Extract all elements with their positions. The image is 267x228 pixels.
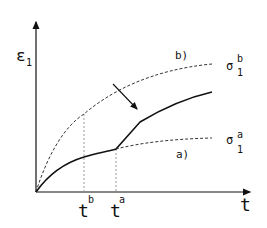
x-axis-label: t: [240, 194, 251, 215]
y-axis-label: ε: [16, 46, 26, 65]
curve-main: [36, 92, 212, 192]
tick-ta-sup: a: [119, 194, 125, 205]
sigma-b-sup: b: [237, 53, 243, 64]
y-axis-label-sub: 1: [26, 57, 32, 68]
sigma-b-sub: 1: [237, 67, 243, 78]
curve-b-label: b): [175, 49, 188, 62]
curve-a-label: a): [176, 148, 189, 161]
tick-tb-sup: b: [88, 194, 94, 205]
sigma-b-label: σ: [226, 59, 233, 73]
sigma-a-label: σ: [226, 133, 233, 147]
curve-b: [36, 64, 212, 192]
curve-a: [116, 138, 212, 149]
strain-time-diagram: ε 1 t t b t a b) a) σ b 1 σ a 1: [0, 0, 267, 228]
sigma-a-sub: 1: [237, 144, 243, 155]
sigma-a-sup: a: [237, 129, 243, 140]
